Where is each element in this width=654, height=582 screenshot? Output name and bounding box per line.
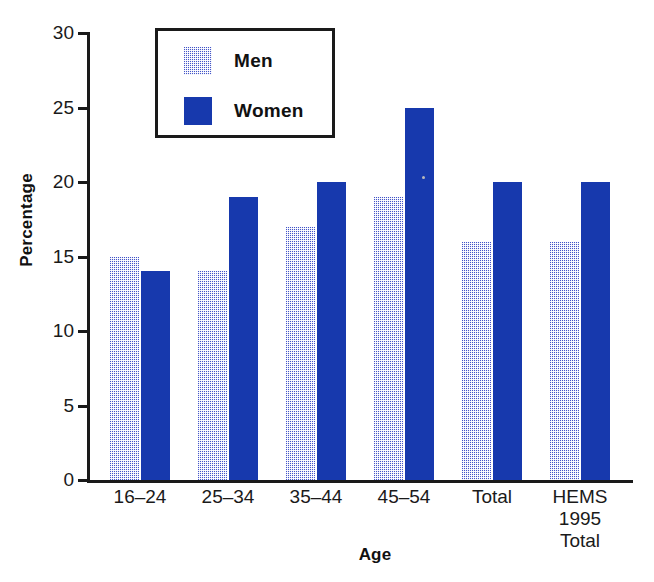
y-axis-title: Percentage xyxy=(17,155,37,285)
legend-item-men: Men xyxy=(158,41,332,81)
x-axis-category-labels: 16–2425–3435–4445–54TotalHEMS 1995 Total xyxy=(90,486,633,576)
y-axis-tick xyxy=(78,330,90,333)
y-axis-tick xyxy=(78,107,90,110)
y-axis-tick-label: 30 xyxy=(14,23,74,42)
y-axis-tick xyxy=(78,32,90,35)
bar-group xyxy=(550,33,610,480)
legend-swatch-men-icon xyxy=(184,47,212,75)
bar-women xyxy=(229,197,258,480)
bar-women xyxy=(141,271,170,480)
y-axis-tick xyxy=(78,479,90,482)
x-axis-line xyxy=(87,480,633,483)
bar-women xyxy=(405,108,434,481)
y-axis-tick xyxy=(78,256,90,259)
bar-men xyxy=(110,257,139,481)
legend-swatch-women-icon xyxy=(184,97,212,125)
y-axis-tick-label: 25 xyxy=(14,98,74,117)
bar-men xyxy=(198,271,227,480)
y-axis-tick xyxy=(78,181,90,184)
bar-group xyxy=(462,33,522,480)
legend-label-men: Men xyxy=(234,50,273,72)
legend-label-women: Women xyxy=(234,100,304,122)
y-axis-tick xyxy=(78,405,90,408)
bar-chart: 051015202530 Percentage Age 16–2425–3435… xyxy=(0,0,654,582)
y-axis-tick-labels: 051015202530 xyxy=(8,0,74,582)
bar-men xyxy=(550,242,579,480)
bar-men xyxy=(462,242,491,480)
bar-men xyxy=(374,197,403,480)
chart-legend: Men Women xyxy=(155,28,335,138)
y-axis-tick-label: 5 xyxy=(14,396,74,415)
y-axis-tick-label: 0 xyxy=(14,470,74,489)
bar-women xyxy=(317,182,346,480)
x-axis-category-label: HEMS 1995 Total xyxy=(525,486,635,552)
bar-women xyxy=(493,182,522,480)
scan-artifact-speck xyxy=(422,176,425,179)
bar-group xyxy=(374,33,434,480)
legend-item-women: Women xyxy=(158,91,332,131)
bar-women xyxy=(581,182,610,480)
bar-men xyxy=(286,227,315,480)
y-axis-tick-label: 10 xyxy=(14,321,74,340)
